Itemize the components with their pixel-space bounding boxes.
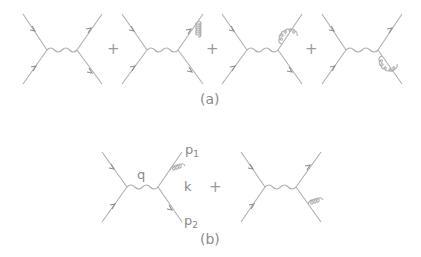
- diagram-b1-emission-upper: [102, 152, 185, 222]
- plus-operator: +: [305, 42, 318, 57]
- emitted-gluon: [308, 198, 323, 204]
- photon-propagator: [247, 48, 278, 52]
- caption-b: (b): [200, 232, 220, 246]
- label-p2: p2: [184, 214, 198, 227]
- plus-operator: +: [206, 42, 219, 57]
- diagram-a1-tree: [23, 14, 102, 84]
- emitted-gluon: [170, 164, 185, 170]
- diagram-a2-vertex-correction: [122, 14, 203, 84]
- photon-propagator: [346, 48, 378, 52]
- photon-propagator: [47, 48, 77, 52]
- plus-operator: +: [209, 180, 222, 195]
- photon-propagator: [147, 48, 178, 52]
- label-q: q: [137, 168, 145, 181]
- label-p1: p1: [185, 143, 199, 156]
- photon-propagator: [127, 185, 158, 189]
- diagram-a4-self-energy-lower: [322, 14, 402, 84]
- plus-operator: +: [107, 42, 120, 57]
- label-k: k: [184, 180, 192, 193]
- diagram-b2-emission-lower: [241, 152, 323, 222]
- caption-a: (a): [200, 92, 220, 106]
- diagram-a3-self-energy-upper: [222, 14, 302, 84]
- gluon-loop: [279, 29, 297, 44]
- photon-propagator: [265, 185, 296, 189]
- feynman-diagrams-canvas: [0, 0, 421, 257]
